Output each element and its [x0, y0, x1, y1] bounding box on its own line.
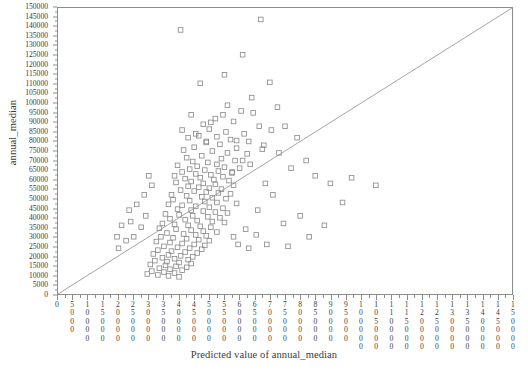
x-tick-label: 100000 [354, 301, 368, 351]
data-point [154, 239, 159, 244]
data-point [175, 245, 180, 250]
y-tick-label: 90000 [29, 118, 48, 126]
x-tick-mark-minor [414, 295, 415, 298]
data-point [119, 223, 124, 228]
y-tick-label: 135000 [25, 32, 48, 40]
data-point [186, 223, 191, 228]
data-point [295, 135, 300, 140]
x-tick-label: 125000 [430, 301, 444, 351]
data-point [212, 177, 217, 182]
y-tick-label: 15000 [29, 262, 48, 270]
y-tick-label: 35000 [29, 224, 48, 232]
data-point [236, 242, 241, 247]
x-tick-label: 150000 [506, 301, 520, 351]
data-point [289, 166, 294, 171]
x-tick-mark-minor [171, 295, 172, 298]
data-point [189, 228, 194, 233]
y-tick-label: 100000 [25, 99, 48, 107]
data-point [219, 156, 224, 161]
data-point [245, 152, 250, 157]
data-point [160, 221, 165, 226]
data-point [153, 258, 158, 263]
data-point [177, 275, 182, 280]
data-point [162, 244, 167, 249]
data-point [171, 197, 176, 202]
x-tick-label: 105000 [369, 301, 383, 351]
data-point [209, 225, 214, 230]
x-tick-label: 50000 [202, 301, 216, 343]
x-tick-mark-minor [80, 295, 81, 298]
x-tick-label: 45000 [187, 301, 201, 343]
x-tick-mark-minor [338, 295, 339, 298]
data-point [271, 193, 276, 198]
y-tick-label: 5000 [33, 281, 48, 289]
data-point [201, 229, 206, 234]
data-point [224, 130, 229, 135]
data-point [124, 238, 129, 243]
data-point [210, 219, 215, 224]
data-point [184, 265, 189, 270]
data-point [189, 179, 194, 184]
x-tick-mark-minor [429, 295, 430, 298]
x-tick-label: 10000 [80, 301, 94, 343]
y-tick-label: 115000 [26, 70, 49, 78]
data-point [190, 255, 195, 260]
data-point [225, 103, 230, 108]
data-point [156, 248, 161, 253]
data-point [234, 138, 239, 143]
data-point [239, 109, 244, 114]
data-point [215, 230, 220, 235]
data-point [157, 266, 162, 271]
x-tick-label: 130000 [445, 301, 459, 351]
data-point [196, 185, 201, 190]
x-tick-label: 40000 [172, 301, 186, 343]
data-point [234, 146, 239, 151]
y-axis-ticks: 0500010000150002000025000300003500040000… [0, 7, 57, 295]
data-point [156, 273, 161, 278]
identity-reference-line [58, 8, 512, 294]
data-point [172, 222, 177, 227]
data-point [181, 148, 186, 153]
data-point [255, 208, 260, 213]
data-point [233, 158, 238, 163]
data-point [139, 225, 144, 230]
data-point [207, 205, 212, 210]
x-tick-mark-minor [460, 295, 461, 298]
data-point [192, 242, 197, 247]
data-point [187, 167, 192, 172]
data-point [237, 166, 242, 171]
y-tick-label: 120000 [25, 61, 48, 69]
data-point [249, 95, 254, 100]
x-tick-mark-minor [247, 295, 248, 298]
x-tick-mark-minor [232, 295, 233, 298]
y-tick-label: 145000 [25, 13, 48, 21]
data-point [216, 169, 221, 174]
scatter-plot-figure: annual_median 05000100001500020000250003… [0, 0, 528, 373]
data-point [209, 120, 214, 125]
y-tick-label: 60000 [29, 176, 48, 184]
y-tick-label: 110000 [26, 80, 49, 88]
data-point [195, 218, 200, 223]
data-point [218, 215, 223, 220]
data-point [115, 235, 120, 240]
data-point [304, 158, 309, 163]
x-tick-label: 55000 [217, 301, 231, 343]
data-point [263, 181, 268, 186]
y-tick-label: 40000 [29, 214, 48, 222]
data-point [116, 246, 121, 251]
data-point [234, 201, 239, 206]
data-point [128, 219, 133, 224]
x-tick-mark-minor [293, 295, 294, 298]
data-point [213, 210, 218, 215]
data-point [222, 72, 227, 77]
x-tick-label: 0 [50, 301, 64, 309]
data-point [180, 170, 185, 175]
data-point [269, 128, 274, 133]
data-point [184, 155, 189, 160]
x-tick-mark-minor [445, 295, 446, 298]
data-point [213, 182, 218, 187]
data-point [143, 214, 148, 219]
x-tick-label: 80000 [293, 301, 307, 343]
data-point [174, 227, 179, 232]
data-point [172, 271, 177, 276]
